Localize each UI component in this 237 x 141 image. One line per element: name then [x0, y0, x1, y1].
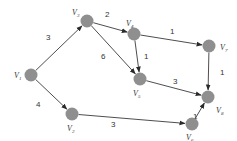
- node-label-v1: V1: [14, 71, 21, 81]
- edge-weight-v4-v7: 1: [170, 27, 175, 36]
- edge-weight-v3-v4: 2: [105, 10, 110, 19]
- node-v3: [81, 15, 94, 28]
- node-label-v7: V7: [220, 43, 228, 53]
- edge-weight-v4-v5: 1: [144, 52, 149, 61]
- graph-diagram: 3426113131 V1V2V3V4V5V6V7V8: [0, 0, 237, 141]
- node-v5: [134, 73, 147, 86]
- nodes-layer: [25, 15, 216, 131]
- edge-weight-v2-v6: 3: [111, 120, 116, 129]
- edge-weight-v1-v2: 4: [36, 100, 41, 109]
- node-label-v3: V3: [72, 8, 80, 18]
- edge-v1-v3: [36, 26, 82, 71]
- edge-v3-v4: [93, 23, 127, 32]
- node-v4: [128, 28, 141, 41]
- node-v6: [186, 118, 199, 131]
- node-v1: [25, 69, 38, 82]
- node-label-v4: V4: [126, 19, 134, 29]
- edges-layer: [36, 23, 209, 124]
- node-label-v8: V8: [216, 106, 224, 116]
- node-v8: [202, 91, 215, 104]
- node-v2: [66, 108, 79, 121]
- edge-weight-v1-v3: 3: [46, 33, 51, 42]
- edge-weight-v7-v8: 1: [220, 68, 225, 77]
- edge-v4-v7: [140, 35, 202, 45]
- graph-canvas: 3426113131 V1V2V3V4V5V6V7V8: [0, 0, 237, 141]
- edge-v4-v5: [135, 40, 139, 72]
- edge-weight-v3-v5: 6: [101, 52, 106, 61]
- node-label-v2: V2: [67, 124, 75, 134]
- node-v7: [203, 40, 216, 53]
- edge-v2-v6: [79, 115, 186, 124]
- node-label-v5: V5: [133, 89, 141, 99]
- edge-v7-v8: [208, 53, 209, 91]
- edge-weight-v5-v8: 3: [173, 77, 178, 86]
- node-label-v6: V6: [186, 133, 194, 141]
